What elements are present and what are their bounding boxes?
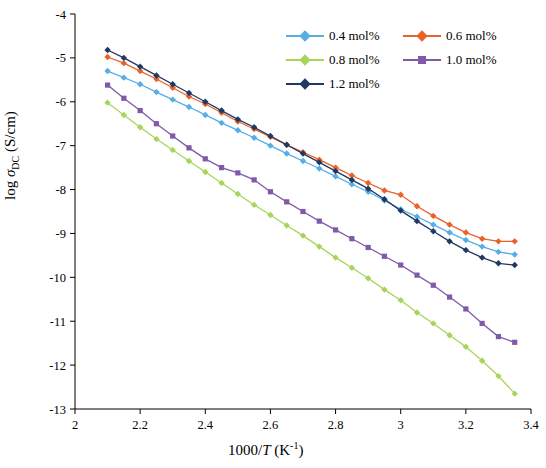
data-point: [414, 273, 419, 278]
y-axis-title: log σDC (S/cm): [2, 111, 21, 200]
legend-item[interactable]: 1.2 mol%: [286, 76, 403, 92]
y-title-unit: (S/cm): [2, 111, 18, 156]
y-tick-label: -5: [56, 51, 66, 65]
legend-label: 1.0 mol%: [446, 52, 497, 68]
legend-label: 0.8 mol%: [329, 52, 380, 68]
data-point: [252, 177, 257, 182]
y-tick-label: -7: [56, 139, 66, 153]
x-tick-label: 2.8: [328, 418, 344, 432]
legend-label: 0.4 mol%: [329, 28, 380, 44]
legend-row: 0.8 mol%1.0 mol%: [286, 48, 536, 72]
x-title-unit: (K: [271, 442, 291, 458]
data-point: [480, 321, 485, 326]
legend-label: 0.6 mol%: [446, 28, 497, 44]
y-tick-label: -11: [50, 315, 66, 329]
y-tick-label: -8: [56, 183, 66, 197]
data-point: [235, 170, 240, 175]
data-point: [268, 189, 273, 194]
data-point: [398, 262, 403, 267]
data-point: [121, 96, 126, 101]
data-point: [447, 294, 452, 299]
chart-legend: 0.4 mol%0.6 mol%0.8 mol%1.0 mol%1.2 mol%: [286, 24, 536, 96]
x-axis-title: 1000/T (K-1): [228, 440, 303, 459]
data-point: [203, 156, 208, 161]
legend-label: 1.2 mol%: [329, 76, 380, 92]
x-title-t: T: [262, 442, 270, 458]
legend-item[interactable]: 0.8 mol%: [286, 52, 403, 68]
data-point: [512, 340, 517, 345]
data-point: [496, 334, 501, 339]
y-tick-label: -10: [49, 271, 66, 285]
y-tick-label: -6: [56, 95, 66, 109]
data-point: [105, 83, 110, 88]
x-title-pre: 1000/: [228, 442, 262, 458]
data-point: [317, 219, 322, 224]
chart-figure: 22.22.42.62.833.23.4-13-12-11-10-9-8-7-6…: [0, 0, 546, 468]
y-title-sigma: σ: [2, 170, 18, 177]
data-point: [349, 236, 354, 241]
data-point: [333, 227, 338, 232]
legend-item[interactable]: 0.4 mol%: [286, 28, 403, 44]
data-point: [170, 133, 175, 138]
data-point: [366, 245, 371, 250]
y-tick-label: -4: [56, 8, 67, 22]
legend-marker-icon: [286, 53, 324, 67]
legend-marker-icon: [403, 53, 441, 67]
x-tick-label: 3.2: [458, 418, 474, 432]
legend-item[interactable]: 0.6 mol%: [403, 28, 520, 44]
x-tick-label: 2.6: [263, 418, 279, 432]
y-tick-label: -9: [56, 227, 66, 241]
data-point: [154, 121, 159, 126]
legend-marker-icon: [286, 29, 324, 43]
x-tick-label: 2.4: [197, 418, 213, 432]
y-tick-label: -12: [49, 359, 66, 373]
y-title-sub: DC: [10, 156, 21, 170]
data-point: [463, 306, 468, 311]
x-tick-label: 2: [72, 418, 78, 432]
legend-marker-icon: [286, 77, 324, 91]
data-point: [186, 145, 191, 150]
x-tick-label: 2.2: [132, 418, 148, 432]
y-title-log: log: [2, 177, 18, 200]
legend-row: 1.2 mol%: [286, 72, 536, 96]
legend-marker-icon: [403, 29, 441, 43]
x-tick-label: 3.4: [523, 418, 539, 432]
data-point: [284, 199, 289, 204]
data-point: [300, 209, 305, 214]
legend-item[interactable]: 1.0 mol%: [403, 52, 520, 68]
x-title-close: ): [298, 442, 303, 458]
legend-row: 0.4 mol%0.6 mol%: [286, 24, 536, 48]
x-tick-label: 3: [398, 418, 404, 432]
data-point: [431, 283, 436, 288]
data-point: [219, 165, 224, 170]
y-tick-label: -13: [49, 403, 66, 417]
data-point: [382, 254, 387, 259]
data-point: [138, 108, 143, 113]
